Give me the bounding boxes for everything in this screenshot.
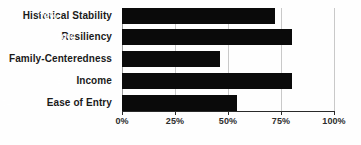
bar-historical-stability[interactable] (122, 8, 275, 24)
category-label-income: Income (76, 73, 112, 89)
bar-ease-of-entry[interactable] (122, 95, 237, 111)
x-tick-label-100: 100% (322, 116, 345, 126)
category-label-family-centeredness: Family-Centeredness (9, 51, 112, 67)
plot-area: 72% 80% 46% 80% 54% (122, 8, 334, 111)
x-tick-mark-0 (122, 112, 123, 115)
bar-resiliency[interactable] (122, 29, 292, 45)
bar-value-historical-stability: 72% (40, 8, 58, 24)
horizontal-bar-chart: Historical Stability Resiliency Family-C… (0, 0, 361, 145)
gridline-75 (281, 8, 282, 111)
x-tick-label-25: 25% (166, 116, 184, 126)
bar-income[interactable] (122, 73, 292, 89)
category-label-ease-of-entry: Ease of Entry (47, 95, 112, 111)
gridline-100 (334, 8, 335, 111)
bar-value-ease-of-entry: 54% (1, 95, 19, 111)
bar-value-family-centeredness: 46% (0, 51, 3, 67)
bar-value-income: 80% (57, 73, 75, 89)
x-tick-mark-75 (281, 112, 282, 115)
x-tick-label-50: 50% (219, 116, 237, 126)
x-tick-label-0: 0% (115, 116, 128, 126)
x-tick-mark-25 (175, 112, 176, 115)
category-label-historical-stability: Historical Stability (23, 8, 112, 24)
x-tick-mark-50 (228, 112, 229, 115)
x-tick-label-75: 75% (272, 116, 290, 126)
x-tick-mark-100 (334, 112, 335, 115)
bar-family-centeredness[interactable] (122, 51, 220, 67)
bar-value-resiliency: 80% (57, 29, 75, 45)
